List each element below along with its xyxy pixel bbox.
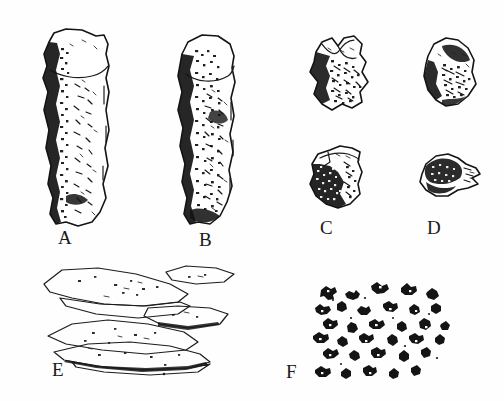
specimen-plate: A B C D E F: [0, 0, 504, 401]
figure-specimen-a: [30, 26, 116, 231]
specimen-label-e: E: [52, 360, 64, 379]
figure-specimen-c-upper: [298, 30, 376, 120]
figure-specimen-d-lower: [412, 146, 484, 208]
specimen-label-f: F: [286, 362, 297, 381]
figure-specimen-f: [305, 278, 455, 388]
figure-specimen-c-lower: [300, 140, 372, 218]
figure-specimen-d-upper: [412, 30, 484, 118]
figure-specimen-e: [38, 262, 268, 377]
specimen-label-a: A: [58, 228, 72, 247]
specimen-label-b: B: [199, 230, 212, 249]
specimen-label-d: D: [427, 218, 441, 237]
specimen-label-c: C: [320, 218, 333, 237]
figure-specimen-b: [160, 32, 246, 232]
